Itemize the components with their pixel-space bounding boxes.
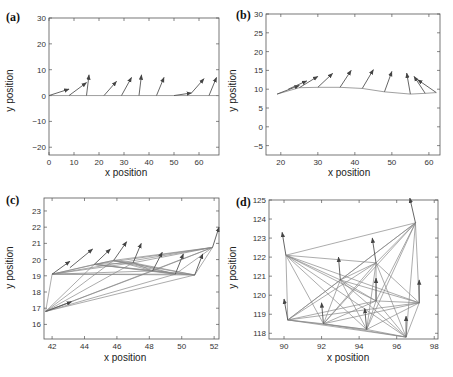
y-tick-label: 121 (253, 272, 267, 281)
y-tick-label: 120 (253, 291, 267, 300)
x-tick-label: 90 (280, 342, 289, 351)
heading-arrow-icon (69, 83, 87, 96)
heading-arrow-icon (340, 70, 351, 87)
plot-frame (49, 18, 219, 155)
y-tick-label: 119 (253, 310, 266, 319)
y-tick-label: 30 (37, 14, 46, 23)
x-tick-label: 60 (195, 158, 204, 167)
plot-frame (266, 14, 440, 155)
y-tick-label: 30 (254, 10, 263, 19)
panel-a-label: (a) (6, 10, 20, 25)
x-tick-label: 40 (145, 158, 154, 167)
panel-d-xlabel: x position (327, 352, 369, 363)
comm-link (340, 263, 376, 280)
heading-arrow-icon (384, 72, 391, 92)
x-tick-label: 42 (48, 342, 57, 351)
y-tick-label: 23 (32, 207, 41, 216)
heading-arrow-icon (49, 89, 69, 95)
x-tick-label: 50 (177, 342, 186, 351)
trajectory-line (277, 87, 436, 94)
y-tick-label: 19 (32, 272, 41, 281)
heading-arrow-icon (104, 81, 117, 95)
heading-arrow-icon (114, 242, 127, 261)
heading-arrow-icon (122, 77, 132, 95)
heading-arrow-icon (46, 302, 72, 312)
y-tick-label: 0 (259, 123, 264, 132)
heading-arrow-icon (414, 76, 425, 93)
y-tick-label: 0 (42, 92, 47, 101)
panel-b-ylabel: y position (227, 69, 238, 111)
y-tick-label: −5 (254, 142, 264, 151)
heading-arrow-icon (277, 85, 299, 94)
panel-d-ylabel: y position (227, 246, 238, 288)
comm-link (195, 247, 213, 275)
x-tick-label: 30 (313, 158, 322, 167)
y-tick-label: 20 (32, 256, 41, 265)
y-tick-label: 22 (32, 223, 41, 232)
y-tick-label: 21 (32, 239, 41, 248)
y-tick-label: 20 (37, 40, 46, 49)
y-tick-label: 10 (37, 66, 46, 75)
comm-link (340, 223, 415, 280)
panel-b: 2030405060−5051015202530 (254, 10, 440, 167)
x-tick-label: 44 (80, 342, 89, 351)
panel-a-xlabel: x position (105, 167, 147, 178)
y-tick-label: 25 (254, 29, 263, 38)
figure-canvas: 0102030405060−20−1001020302030405060−505… (0, 0, 453, 377)
heading-arrow-icon (299, 76, 318, 87)
heading-arrow-icon (87, 75, 90, 96)
heading-arrow-icon (157, 77, 165, 95)
comm-link (286, 223, 416, 255)
heading-arrow-icon (410, 198, 416, 223)
panel-d-label: (d) (236, 195, 251, 210)
x-tick-label: 46 (112, 342, 121, 351)
x-tick-label: 20 (276, 158, 285, 167)
comm-link (52, 247, 212, 274)
x-tick-label: 40 (350, 158, 359, 167)
comm-link (153, 247, 213, 271)
heading-arrow-icon (338, 257, 340, 280)
y-tick-label: 17 (32, 304, 41, 313)
x-tick-label: 48 (145, 342, 154, 351)
heading-arrow-icon (209, 77, 217, 95)
plot-frame (269, 200, 438, 339)
y-tick-label: −20 (32, 143, 46, 152)
comm-link (46, 275, 195, 311)
y-tick-label: 20 (254, 48, 263, 57)
x-tick-label: 0 (47, 158, 52, 167)
panel-c-ylabel: y position (4, 246, 15, 288)
y-tick-label: −10 (32, 117, 46, 126)
panel-a: 0102030405060−20−100102030 (32, 14, 219, 167)
comm-link (286, 255, 419, 303)
panel-d: 9092949698118119120121122123124125 (253, 196, 440, 351)
heading-arrow-icon (192, 79, 205, 93)
heading-arrow-icon (282, 232, 286, 255)
heading-arrow-icon (362, 70, 373, 89)
comm-link (376, 223, 415, 301)
panel-c: 4244464850521617181920212223 (32, 198, 219, 351)
comm-link (415, 223, 419, 303)
y-tick-label: 123 (253, 234, 267, 243)
heading-arrow-icon (318, 73, 333, 87)
heading-arrow-icon (213, 227, 219, 247)
panel-b-label: (b) (236, 8, 251, 23)
x-tick-label: 92 (317, 342, 326, 351)
panel-c-xlabel: x position (104, 352, 146, 363)
x-tick-label: 30 (120, 158, 129, 167)
comm-link (46, 263, 134, 312)
x-tick-label: 96 (392, 342, 401, 351)
x-tick-label: 20 (95, 158, 104, 167)
x-tick-label: 94 (355, 342, 364, 351)
x-tick-label: 52 (210, 342, 219, 351)
panel-a-ylabel: y position (4, 69, 15, 111)
y-tick-label: 16 (32, 320, 41, 329)
y-tick-label: 125 (253, 196, 267, 205)
heading-arrow-icon (139, 75, 142, 96)
comm-link (376, 223, 415, 263)
panel-c-label: (c) (6, 193, 19, 208)
panel-b-xlabel: x position (328, 167, 370, 178)
y-tick-label: 18 (32, 288, 41, 297)
x-tick-label: 50 (170, 158, 179, 167)
heading-arrow-icon (70, 249, 93, 268)
x-tick-label: 50 (387, 158, 396, 167)
